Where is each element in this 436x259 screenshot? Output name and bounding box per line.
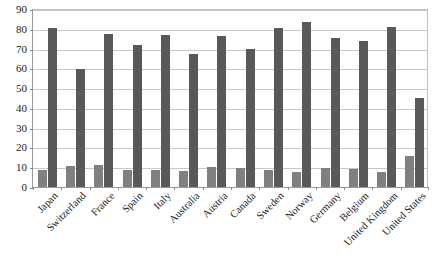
y-tick-mark — [30, 10, 33, 11]
y-tick-mark — [30, 109, 33, 110]
bar — [405, 156, 414, 187]
bar — [236, 168, 245, 187]
x-tick-label: Austria — [200, 190, 230, 220]
y-tick-mark — [30, 129, 33, 130]
bar-group — [94, 10, 113, 187]
bar — [133, 45, 142, 187]
bar-chart: 0102030405060708090 JapanSwitzerlandFran… — [0, 0, 436, 259]
gridline — [33, 10, 427, 11]
bar-group — [66, 10, 85, 187]
gridline — [33, 168, 427, 169]
plot-area — [32, 9, 428, 188]
y-tick-label: 40 — [16, 103, 27, 114]
bar — [415, 98, 424, 187]
y-tick-mark — [30, 30, 33, 31]
bar — [359, 41, 368, 187]
bar-group — [264, 10, 283, 187]
bar-group — [349, 10, 368, 187]
bar — [48, 28, 57, 187]
bar-group — [38, 10, 57, 187]
bar — [387, 27, 396, 187]
x-tick-label: France — [88, 190, 116, 218]
x-tick-label: Sweden — [255, 190, 286, 221]
y-tick-mark — [30, 69, 33, 70]
x-axis: JapanSwitzerlandFranceSpainItalyAustrali… — [32, 190, 436, 259]
y-tick-mark — [30, 148, 33, 149]
bar-group — [236, 10, 255, 187]
bar — [38, 170, 47, 187]
y-tick-label: 90 — [16, 4, 27, 15]
bar — [123, 170, 132, 187]
bar — [179, 171, 188, 187]
bar — [331, 38, 340, 187]
y-tick-label: 60 — [16, 63, 27, 74]
y-tick-mark — [30, 89, 33, 90]
bar — [76, 69, 85, 187]
x-tick-label: Canada — [228, 190, 258, 220]
bar — [302, 22, 311, 187]
y-tick-label: 20 — [16, 142, 27, 153]
bar-group — [207, 10, 226, 187]
bar-group — [377, 10, 396, 187]
gridline — [33, 109, 427, 110]
y-tick-label: 0 — [22, 182, 28, 193]
bar — [66, 166, 75, 187]
x-tick-label: Spain — [120, 190, 145, 215]
bar-group — [123, 10, 142, 187]
bar — [264, 170, 273, 187]
bar — [94, 165, 103, 187]
bar — [292, 172, 301, 187]
bar — [189, 54, 198, 188]
bar — [274, 28, 283, 187]
bar-group — [405, 10, 424, 187]
gridline — [33, 50, 427, 51]
gridline — [33, 129, 427, 130]
bar — [104, 34, 113, 187]
bar — [161, 35, 170, 187]
gridline — [33, 30, 427, 31]
bar — [349, 169, 358, 187]
bar — [321, 168, 330, 187]
x-tick-label: Australia — [166, 190, 201, 225]
y-tick-label: 50 — [16, 83, 27, 94]
y-tick-label: 80 — [16, 24, 27, 35]
bar — [217, 36, 226, 187]
x-tick-label: Italy — [152, 190, 173, 211]
bar-group — [179, 10, 198, 187]
bar-group — [151, 10, 170, 187]
y-tick-mark — [30, 50, 33, 51]
bar — [377, 172, 386, 187]
y-tick-label: 10 — [16, 162, 27, 173]
bar — [151, 170, 160, 187]
bar — [207, 167, 216, 187]
bar-group — [321, 10, 340, 187]
gridline — [33, 148, 427, 149]
y-tick-label: 70 — [16, 44, 27, 55]
bar-group — [292, 10, 311, 187]
x-tick-label: Japan — [35, 190, 60, 215]
y-tick-label: 30 — [16, 123, 27, 134]
y-axis: 0102030405060708090 — [0, 0, 30, 259]
gridline — [33, 89, 427, 90]
y-tick-mark — [30, 168, 33, 169]
bar — [246, 49, 255, 187]
gridline — [33, 69, 427, 70]
